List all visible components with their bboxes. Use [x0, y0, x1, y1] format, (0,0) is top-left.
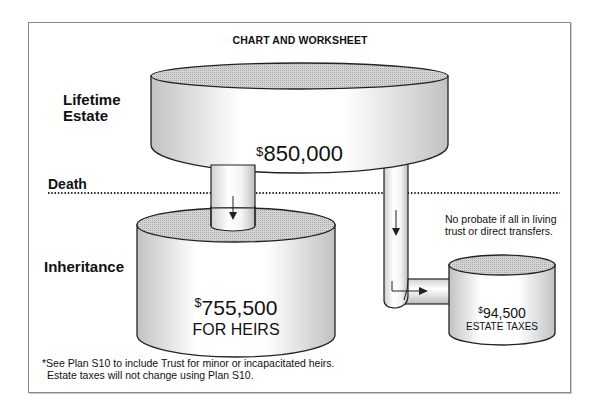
lifetime-estate-amount: $850,000 — [151, 141, 448, 167]
lifetime-estate-label: Lifetime Estate — [63, 92, 121, 124]
inheritance-label: Inheritance — [44, 259, 124, 275]
amount-value: 850,000 — [263, 141, 343, 166]
amount-value: 755,500 — [202, 296, 278, 319]
footnote: *See Plan S10 to include Trust for minor… — [42, 357, 334, 381]
currency-symbol: $ — [195, 296, 202, 310]
death-label: Death — [48, 176, 87, 192]
heirs-caption: FOR HEIRS — [137, 321, 335, 339]
footnote-line1: *See Plan S10 to include Trust for minor… — [42, 357, 334, 369]
flow-diagram — [0, 0, 600, 417]
estate-taxes-caption: ESTATE TAXES — [449, 321, 555, 333]
footnote-line2: Estate taxes will not change using Plan … — [42, 369, 334, 381]
estate-taxes-amount: $94,500 ESTATE TAXES — [449, 303, 555, 333]
tax-pipe — [384, 150, 451, 308]
chart-title: CHART AND WORKSHEET — [0, 34, 600, 46]
lifetime-label-line2: Estate — [63, 108, 121, 124]
lifetime-label-line1: Lifetime — [63, 92, 121, 108]
probate-note: No probate if all in living trust or dir… — [445, 213, 565, 237]
amount-value: 94,500 — [483, 305, 526, 321]
heirs-amount: $755,500 FOR HEIRS — [137, 292, 335, 339]
